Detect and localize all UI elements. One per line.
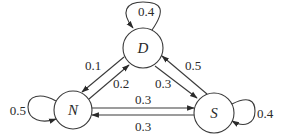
- edge-s-s: [232, 100, 255, 125]
- node-d: D: [123, 28, 163, 68]
- node-label: D: [137, 40, 149, 56]
- edge-label-n-n: 0.5: [10, 103, 26, 118]
- state-diagram: D N S 0.4 0.1 0.2 0.3 0.5 0.3 0.3 0.5 0.…: [0, 0, 283, 140]
- edge-label-s-s: 0.4: [257, 106, 274, 121]
- edge-n-n: [28, 96, 56, 121]
- edge-label-s-n: 0.3: [135, 119, 151, 134]
- edge-label-n-d: 0.2: [113, 76, 129, 91]
- edge-label-n-s: 0.3: [135, 92, 151, 107]
- node-label: N: [67, 102, 79, 118]
- edge-label-s-d: 0.5: [185, 58, 201, 73]
- edge-label-d-d: 0.4: [138, 4, 155, 19]
- node-label: S: [210, 105, 218, 121]
- edge-label-d-s: 0.3: [155, 76, 171, 91]
- node-n: N: [54, 91, 92, 129]
- edge-label-d-n: 0.1: [85, 58, 101, 73]
- node-s: S: [194, 93, 234, 133]
